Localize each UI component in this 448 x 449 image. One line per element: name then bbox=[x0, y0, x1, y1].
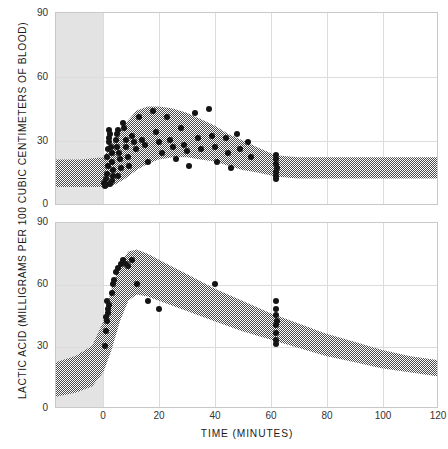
x-tick-40: 40 bbox=[195, 410, 235, 421]
y-tick-top-0: 0 bbox=[8, 198, 48, 209]
x-tick-80: 80 bbox=[307, 410, 347, 421]
data-point bbox=[145, 159, 151, 165]
data-point bbox=[212, 281, 218, 287]
data-point bbox=[150, 108, 156, 114]
data-point bbox=[184, 148, 190, 154]
data-point bbox=[104, 298, 110, 304]
data-point bbox=[195, 135, 201, 141]
data-point bbox=[248, 154, 254, 160]
data-point bbox=[273, 176, 279, 182]
data-point bbox=[273, 298, 279, 304]
data-point bbox=[123, 144, 129, 150]
x-axis-title: TIME (MINUTES) bbox=[0, 428, 448, 439]
data-point bbox=[181, 142, 187, 148]
bottom-panel bbox=[55, 222, 438, 408]
data-point bbox=[192, 110, 198, 116]
data-point bbox=[206, 106, 212, 112]
data-point bbox=[273, 341, 279, 347]
data-point bbox=[142, 142, 148, 148]
y-tick-bottom-30: 30 bbox=[8, 340, 48, 351]
data-point bbox=[109, 290, 115, 296]
y-tick-bottom-0: 0 bbox=[8, 402, 48, 413]
data-point bbox=[134, 281, 140, 287]
data-point bbox=[273, 312, 279, 318]
data-point bbox=[156, 306, 162, 312]
data-point bbox=[116, 150, 122, 156]
data-point bbox=[234, 131, 240, 137]
x-tick-0: 0 bbox=[83, 410, 123, 421]
data-point bbox=[178, 125, 184, 131]
y-axis-title: LACTIC ACID (MILLIGRAMS PER 100 CUBIC CE… bbox=[17, 1, 28, 421]
x-tick-120: 120 bbox=[418, 410, 448, 421]
data-point bbox=[118, 165, 124, 171]
x-tick-60: 60 bbox=[251, 410, 291, 421]
data-point bbox=[133, 146, 139, 152]
y-tick-bottom-90: 90 bbox=[8, 216, 48, 227]
data-point bbox=[110, 167, 116, 173]
y-tick-top-90: 90 bbox=[8, 7, 48, 18]
data-point bbox=[237, 146, 243, 152]
bottom-panel-band bbox=[56, 223, 437, 407]
data-point bbox=[115, 127, 121, 133]
data-point bbox=[102, 343, 108, 349]
data-point bbox=[159, 150, 165, 156]
data-point bbox=[153, 129, 159, 135]
top-panel bbox=[55, 12, 438, 205]
data-point bbox=[198, 146, 204, 152]
x-tick-20: 20 bbox=[139, 410, 179, 421]
data-point bbox=[214, 159, 220, 165]
lactic-acid-figure: LACTIC ACID (MILLIGRAMS PER 100 CUBIC CE… bbox=[0, 0, 448, 449]
data-point bbox=[170, 144, 176, 150]
data-point bbox=[107, 181, 113, 187]
y-tick-top-60: 60 bbox=[8, 71, 48, 82]
y-tick-top-30: 30 bbox=[8, 135, 48, 146]
y-tick-bottom-60: 60 bbox=[8, 278, 48, 289]
data-point bbox=[223, 135, 229, 141]
data-point bbox=[145, 298, 151, 304]
data-point bbox=[106, 127, 112, 133]
x-tick-100: 100 bbox=[363, 410, 403, 421]
data-point bbox=[114, 144, 120, 150]
data-point bbox=[109, 150, 115, 156]
data-point bbox=[212, 144, 218, 150]
data-point bbox=[109, 159, 115, 165]
data-point bbox=[209, 133, 215, 139]
